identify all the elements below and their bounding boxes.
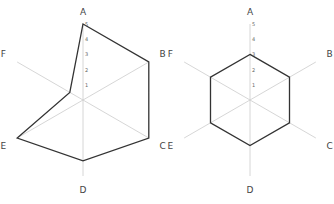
axis-label-d: D: [80, 186, 87, 195]
axis-label-e: E: [167, 142, 173, 151]
tick-label: 2: [252, 67, 255, 72]
tick-label: 4: [252, 37, 255, 42]
axis-label-e: E: [0, 142, 6, 151]
axis-label-a: A: [80, 8, 86, 17]
tick-label: 1: [252, 82, 255, 87]
tick-label: 5: [252, 22, 255, 27]
tick-label: 5: [85, 22, 88, 27]
tick-label: 1: [85, 82, 88, 87]
axis-line-b: [250, 62, 316, 100]
axis-label-f: F: [168, 50, 173, 59]
axis-label-a: A: [247, 8, 253, 17]
tick-label: 3: [252, 52, 255, 57]
axis-label-d: D: [247, 186, 254, 195]
axis-label-f: F: [1, 50, 6, 59]
axis-label-b: B: [160, 50, 166, 59]
axis-line-e: [17, 100, 83, 138]
tick-label: 2: [85, 67, 88, 72]
tick-label: 3: [85, 52, 88, 57]
axis-line-c: [250, 100, 316, 138]
axis-label-b: B: [327, 50, 333, 59]
axis-line-b: [83, 62, 149, 100]
axis-label-c: C: [327, 142, 333, 151]
axis-line-f: [184, 62, 250, 100]
radar-chart-right: ABCDEF12345: [167, 0, 334, 204]
axis-line-e: [184, 100, 250, 138]
axis-line-c: [83, 100, 149, 138]
radar-chart-left: ABCDEF12345: [0, 0, 167, 204]
axis-label-c: C: [160, 142, 166, 151]
radar-plot: [0, 0, 167, 204]
radar-plot: [167, 0, 334, 204]
axis-line-f: [17, 62, 83, 100]
tick-label: 4: [85, 37, 88, 42]
